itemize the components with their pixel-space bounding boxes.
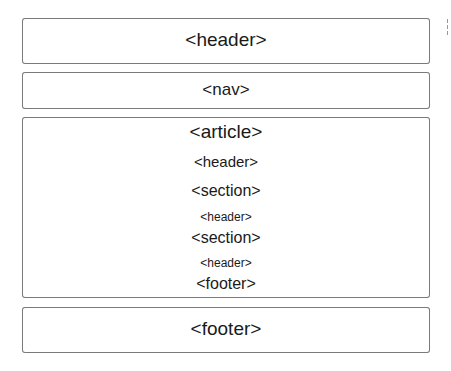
section-2-header-label: <header>	[23, 256, 429, 270]
article-footer-label: <footer>	[23, 275, 429, 293]
page-footer-label: <footer>	[23, 318, 429, 340]
article-box: <article> <header> <section> <header> <s…	[22, 117, 430, 298]
nav-box: <nav>	[22, 72, 430, 109]
page-header-box: <header>	[22, 18, 430, 64]
edge-artifact	[447, 19, 450, 37]
page-header-label: <header>	[23, 29, 429, 51]
article-header-label: <header>	[23, 153, 429, 170]
page-footer-box: <footer>	[22, 307, 430, 353]
nav-label: <nav>	[23, 80, 429, 100]
article-label: <article>	[23, 121, 429, 143]
section-1-label: <section>	[23, 182, 429, 200]
section-2-label: <section>	[23, 229, 429, 247]
section-1-header-label: <header>	[23, 210, 429, 224]
